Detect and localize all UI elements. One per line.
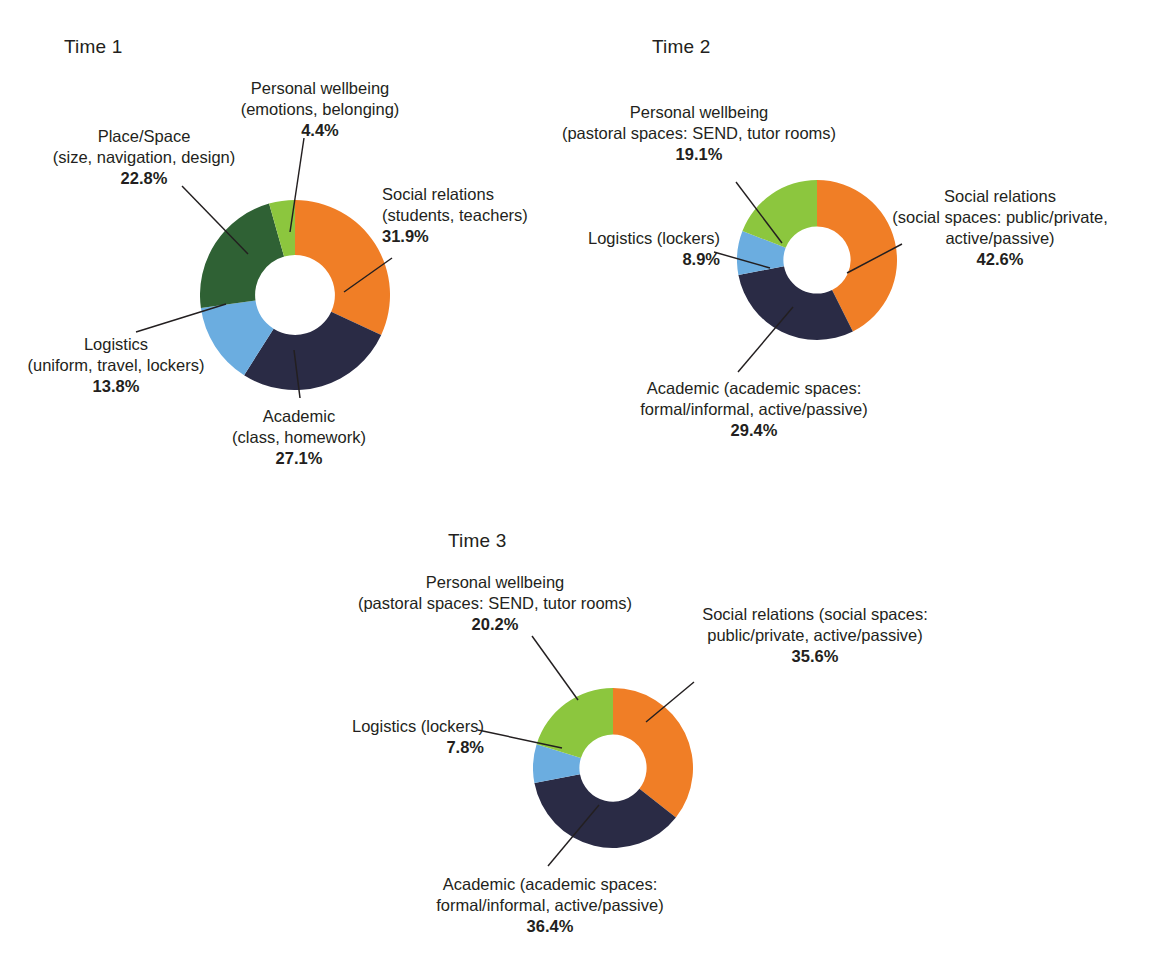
- label-percent: 19.1%: [538, 144, 860, 165]
- label-social-relations-time-3: Social relations (social spaces: public/…: [660, 604, 970, 667]
- label-logistics-time-1: Logistics (uniform, travel, lockers) 13.…: [8, 334, 224, 397]
- donut-slice: [613, 688, 693, 817]
- label-line-2: (uniform, travel, lockers): [8, 355, 224, 376]
- chart-title-time-3: Time 3: [448, 530, 507, 552]
- label-line-2: public/private, active/passive): [660, 625, 970, 646]
- label-line-2: (pastoral spaces: SEND, tutor rooms): [334, 593, 656, 614]
- label-line-1: Logistics: [8, 334, 224, 355]
- label-line-2: (class, homework): [204, 427, 394, 448]
- label-line-1: Social relations: [382, 184, 528, 205]
- label-percent: 8.9%: [568, 249, 720, 270]
- label-line-1: Personal wellbeing: [220, 78, 420, 99]
- donut-slice: [537, 688, 613, 758]
- figure-canvas: Time 1 Personal wellbeing (emotions, bel…: [0, 0, 1149, 958]
- chart-title-time-1: Time 1: [64, 36, 123, 58]
- label-line-3: active/passive): [862, 228, 1138, 249]
- label-percent: 36.4%: [408, 916, 692, 937]
- donut-chart-time-3: [533, 688, 693, 848]
- label-personal-wellbeing-time-3: Personal wellbeing (pastoral spaces: SEN…: [334, 572, 656, 635]
- donut-slice: [295, 200, 390, 335]
- chart-title-time-2: Time 2: [652, 36, 711, 58]
- donut-slice: [738, 266, 852, 340]
- donut-chart-time-1: [200, 200, 390, 390]
- label-academic-time-1: Academic (class, homework) 27.1%: [204, 406, 394, 469]
- label-line-1: Academic (academic spaces:: [612, 378, 896, 399]
- cropped-header-text: [60, 0, 960, 6]
- label-percent: 7.8%: [332, 737, 484, 758]
- label-social-relations-time-1: Social relations (students, teachers) 31…: [382, 184, 528, 247]
- label-line-1: Personal wellbeing: [334, 572, 656, 593]
- label-line-1: Social relations (social spaces:: [660, 604, 970, 625]
- label-academic-time-3: Academic (academic spaces: formal/inform…: [408, 874, 692, 937]
- label-percent: 35.6%: [660, 646, 970, 667]
- label-place-space-time-1: Place/Space (size, navigation, design) 2…: [28, 126, 260, 189]
- label-personal-wellbeing-time-2: Personal wellbeing (pastoral spaces: SEN…: [538, 102, 860, 165]
- label-line-1: Social relations: [862, 186, 1138, 207]
- label-academic-time-2: Academic (academic spaces: formal/inform…: [612, 378, 896, 441]
- label-line-1: Logistics (lockers): [568, 228, 720, 249]
- donut-slice: [200, 204, 284, 308]
- label-line-1: Logistics (lockers): [332, 716, 484, 737]
- label-percent: 20.2%: [334, 614, 656, 635]
- label-line-1: Academic: [204, 406, 394, 427]
- label-line-2: (social spaces: public/private,: [862, 207, 1138, 228]
- label-percent: 42.6%: [862, 249, 1138, 270]
- label-logistics-time-2: Logistics (lockers) 8.9%: [568, 228, 720, 270]
- label-social-relations-time-2: Social relations (social spaces: public/…: [862, 186, 1138, 270]
- label-line-2: formal/informal, active/passive): [408, 895, 692, 916]
- label-percent: 13.8%: [8, 376, 224, 397]
- label-line-1: Place/Space: [28, 126, 260, 147]
- label-percent: 31.9%: [382, 226, 528, 247]
- label-line-2: (pastoral spaces: SEND, tutor rooms): [538, 123, 860, 144]
- label-percent: 27.1%: [204, 448, 394, 469]
- label-line-2: (size, navigation, design): [28, 147, 260, 168]
- label-percent: 29.4%: [612, 420, 896, 441]
- label-line-1: Academic (academic spaces:: [408, 874, 692, 895]
- label-line-2: (students, teachers): [382, 205, 528, 226]
- label-line-2: formal/informal, active/passive): [612, 399, 896, 420]
- label-line-2: (emotions, belonging): [220, 99, 420, 120]
- label-percent: 22.8%: [28, 168, 260, 189]
- label-logistics-time-3: Logistics (lockers) 7.8%: [332, 716, 484, 758]
- label-line-1: Personal wellbeing: [538, 102, 860, 123]
